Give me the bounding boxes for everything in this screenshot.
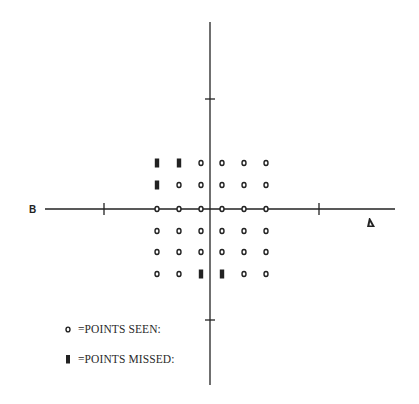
point-seen [155,207,159,212]
filled-block-icon [62,353,74,365]
point-seen [264,183,268,188]
test-points-grid [155,159,268,279]
point-seen [177,207,181,212]
point-seen [220,207,224,212]
point-seen [199,207,203,212]
point-seen [242,183,246,188]
point-seen [220,183,224,188]
point-seen [199,183,203,188]
triangle-marker-icon [366,217,376,228]
point-seen [199,229,203,234]
legend-seen-text: =POINTS SEEN: [78,323,161,335]
point-seen [264,207,268,212]
point-seen [177,229,181,234]
point-seen [155,272,159,277]
axis-label-left: B [29,204,36,215]
point-missed [220,270,224,279]
legend-missed: =POINTS MISSED: [62,353,175,365]
point-seen [177,250,181,255]
point-seen [220,250,224,255]
point-seen [177,272,181,277]
point-seen [155,229,159,234]
point-seen [177,183,181,188]
point-seen [242,272,246,277]
point-seen [242,250,246,255]
point-seen [242,161,246,166]
point-seen [242,207,246,212]
point-missed [199,270,203,279]
point-seen [220,161,224,166]
circle-icon [62,323,74,335]
point-seen [264,229,268,234]
point-seen [264,272,268,277]
point-missed [177,159,181,168]
legend-seen: =POINTS SEEN: [62,323,161,335]
point-seen [155,250,159,255]
point-seen [220,229,224,234]
point-missed [155,181,159,190]
point-missed [155,159,159,168]
point-seen [199,161,203,166]
point-seen [264,250,268,255]
point-seen [264,161,268,166]
legend-missed-text: =POINTS MISSED: [78,353,175,365]
point-seen [199,250,203,255]
visual-field-diagram [0,0,419,404]
point-seen [242,229,246,234]
